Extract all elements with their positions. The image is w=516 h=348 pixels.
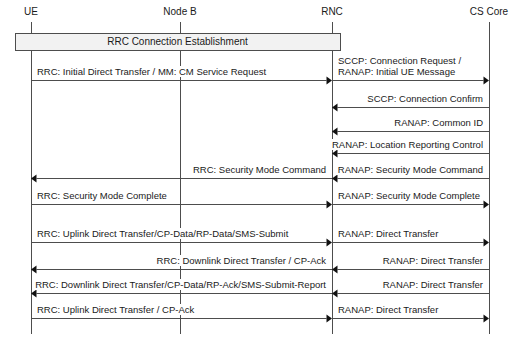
message-label: RANAP: Direct Transfer [381,279,485,290]
message-label-line: RANAP: Common ID [394,117,483,128]
actor-label-rnc: RNC [321,6,343,18]
message-label: RRC: Uplink Direct Transfer / CP-Ack [35,304,196,315]
message-arrowhead [484,239,490,247]
block-label: RRC Connection Establishment [107,36,248,48]
message-label: SCCP: Connection Confirm [365,93,485,104]
message-arrowhead [327,77,333,85]
message-label: RANAP: Direct Transfer [336,228,440,239]
actor-label-ue: UE [24,6,38,18]
message-label-line: RANAP: Initial UE Message [338,66,461,77]
message-label: RRC: Security Mode Complete [35,190,169,201]
message-label-line: SCCP: Connection Confirm [367,93,483,104]
message-label-line: RANAP: Direct Transfer [383,279,483,290]
actor-label-cscore: CS Core [470,6,508,18]
actor-label-nodeb: Node B [163,6,196,18]
message-label-line: RRC: Downlink Direct Transfer / CP-Ack [157,255,326,266]
message-label: RANAP: Security Mode Command [336,164,485,175]
message-label: RANAP: Security Mode Complete [336,190,482,201]
message-label: RRC: Initial Direct Transfer / MM: CM Se… [35,66,268,77]
sequence-diagram: UENode BRNCCS CoreRRC Connection Establi… [0,0,516,348]
message-label-line: SCCP: Connection Request / [338,55,461,66]
message-label: RRC: Security Mode Command [191,164,328,175]
message-arrowhead [327,201,333,209]
message-label-line: RRC: Security Mode Complete [37,190,167,201]
message-arrowhead [327,239,333,247]
message-label-line: RRC: Uplink Direct Transfer / CP-Ack [37,304,194,315]
message-label: RRC: Downlink Direct Transfer / CP-Ack [155,255,328,266]
message-label-line: RANAP: Direct Transfer [383,255,483,266]
message-label: SCCP: Connection Request /RANAP: Initial… [336,55,463,77]
message-label-line: RANAP: Security Mode Complete [338,190,480,201]
message-label: RANAP: Common ID [392,117,485,128]
message-label-line: RRC: Uplink Direct Transfer/CP-Data/RP-D… [37,228,288,239]
message-label: RANAP: Direct Transfer [336,304,440,315]
message-label: RRC: Downlink Direct Transfer/CP-Data/RP… [33,279,328,290]
message-arrowhead [484,77,490,85]
message-label-line: RRC: Downlink Direct Transfer/CP-Data/RP… [35,279,326,290]
message-label-line: RANAP: Location Reporting Control [332,139,483,150]
message-label: RANAP: Direct Transfer [381,255,485,266]
message-label-line: RANAP: Security Mode Command [338,164,483,175]
message-label-line: RANAP: Direct Transfer [338,228,438,239]
message-arrowhead [484,201,490,209]
message-label-line: RRC: Initial Direct Transfer / MM: CM Se… [37,66,266,77]
message-label: RRC: Uplink Direct Transfer/CP-Data/RP-D… [35,228,290,239]
message-arrowhead [327,315,333,323]
message-label-line: RRC: Security Mode Command [193,164,326,175]
message-label-line: RANAP: Direct Transfer [338,304,438,315]
message-label: RANAP: Location Reporting Control [330,139,485,150]
message-arrowhead [484,315,490,323]
